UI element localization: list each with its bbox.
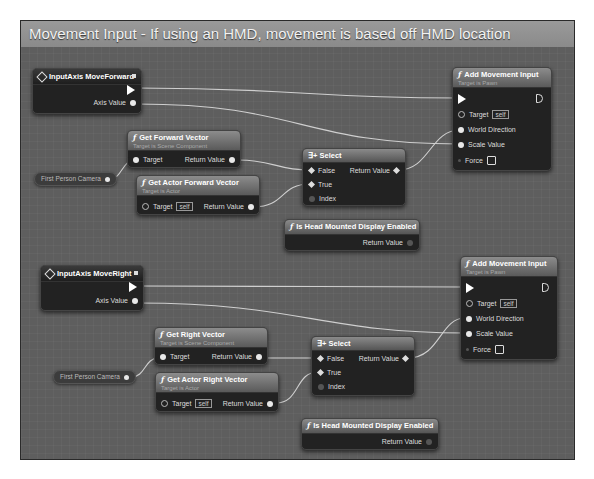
pin-label: Axis Value	[95, 297, 128, 304]
get-forward-vector-node[interactable]: ƒGet Forward Vector Target is Scene Comp…	[127, 130, 241, 168]
force-checkbox[interactable]	[495, 345, 504, 354]
add-movement-input-node[interactable]: ƒAdd Movement Input Target is Pawn Targe…	[460, 256, 558, 360]
comment-box-title[interactable]: Movement Input - If using an HMD, moveme…	[21, 21, 574, 47]
exec-output-pin[interactable]	[536, 94, 543, 103]
self-default-value[interactable]: self	[500, 299, 516, 308]
index-pin[interactable]: Index	[309, 195, 336, 202]
axis-value-pin[interactable]: Axis Value	[95, 297, 138, 304]
object-pin-icon	[105, 177, 110, 182]
node-subtitle: Target is Scene Component	[133, 143, 235, 149]
target-pin[interactable]: Target self	[142, 202, 193, 211]
first-person-camera-variable[interactable]: First Person Camera	[53, 370, 136, 384]
node-title: Add Movement Input	[472, 259, 546, 268]
false-pin[interactable]: False	[309, 167, 335, 174]
force-checkbox[interactable]	[487, 156, 496, 165]
false-pin[interactable]: False	[318, 355, 344, 362]
select-node[interactable]: ∃+ Select False Return Value True Index	[311, 336, 415, 396]
select-icon: ∃+	[317, 339, 326, 348]
return-value-pin[interactable]: Return Value	[359, 355, 408, 362]
node-header: ƒAdd Movement Input Target is Pawn	[453, 68, 551, 88]
event-delegate-pin[interactable]	[132, 74, 136, 78]
world-direction-pin[interactable]: World Direction	[466, 315, 524, 322]
return-value-pin[interactable]: Return Value	[363, 239, 413, 246]
select-icon: ∃+	[308, 151, 317, 160]
vector-pin-icon	[248, 204, 254, 210]
object-pin-icon	[458, 111, 465, 118]
pin-label: Index	[328, 383, 345, 390]
pin-label: Force	[473, 346, 491, 353]
return-value-pin[interactable]: Return Value	[204, 203, 254, 210]
wildcard-pin-icon	[402, 355, 409, 362]
target-pin[interactable]: Target self	[466, 299, 517, 308]
pin-label: World Direction	[468, 126, 516, 133]
true-pin[interactable]: True	[318, 369, 341, 376]
pin-label: Return Value	[212, 353, 252, 360]
self-default-value[interactable]: self	[195, 399, 211, 408]
exec-input-pin[interactable]	[466, 283, 474, 293]
pin-label: Scale Value	[468, 141, 505, 148]
node-header: ∃+ Select	[312, 337, 414, 351]
input-axis-move-forward-node[interactable]: InputAxis MoveForward Axis Value	[32, 68, 142, 114]
get-right-vector-node[interactable]: ƒGet Right Vector Target is Scene Compon…	[154, 327, 268, 365]
force-pin[interactable]: Force	[458, 156, 496, 165]
self-default-value[interactable]: self	[492, 110, 508, 119]
node-header: ƒGet Actor Right Vector Target is Actor	[156, 373, 278, 393]
node-header: ƒGet Forward Vector Target is Scene Comp…	[128, 131, 240, 151]
return-value-pin[interactable]: Return Value	[382, 438, 432, 445]
select-node[interactable]: ∃+ Select False Return Value True Index	[302, 148, 406, 206]
node-title: Is Head Mounted Display Enabled	[296, 222, 416, 231]
add-movement-input-node[interactable]: ƒAdd Movement Input Target is Pawn Targe…	[452, 67, 552, 171]
pin-label: Target	[172, 400, 191, 407]
return-value-pin[interactable]: Return Value	[350, 167, 399, 174]
pin-label: Index	[319, 195, 336, 202]
exec-output-pin[interactable]	[127, 85, 135, 95]
node-title: Get Actor Forward Vector	[148, 178, 239, 187]
is-hmd-enabled-node[interactable]: ƒIs Head Mounted Display Enabled Return …	[301, 418, 439, 450]
object-pin-icon	[161, 400, 168, 407]
world-direction-pin[interactable]: World Direction	[458, 126, 516, 133]
exec-pin-icon	[536, 94, 543, 103]
event-icon	[44, 268, 55, 279]
node-subtitle: Target is Actor	[161, 385, 273, 391]
scale-value-pin[interactable]: Scale Value	[466, 330, 513, 337]
pin-label: Target	[477, 300, 496, 307]
vector-pin-icon	[267, 401, 273, 407]
return-value-pin[interactable]: Return Value	[212, 353, 262, 360]
is-hmd-enabled-node[interactable]: ƒIs Head Mounted Display Enabled Return …	[284, 219, 420, 251]
return-value-pin[interactable]: Return Value	[223, 400, 273, 407]
node-title: Select	[328, 339, 350, 348]
wildcard-pin-icon	[317, 369, 324, 376]
pin-label: World Direction	[476, 315, 524, 322]
node-header: ƒGet Actor Forward Vector Target is Acto…	[137, 176, 259, 196]
exec-output-pin[interactable]	[129, 282, 137, 292]
wildcard-pin-icon	[393, 167, 400, 174]
pin-label: False	[327, 355, 344, 362]
exec-output-pin[interactable]	[542, 283, 549, 292]
target-pin[interactable]: Target	[160, 353, 189, 360]
target-pin[interactable]: Target self	[458, 110, 509, 119]
self-default-value[interactable]: self	[176, 202, 192, 211]
object-pin-icon	[142, 203, 149, 210]
object-pin-icon	[133, 157, 139, 163]
target-pin[interactable]: Target self	[161, 399, 212, 408]
get-actor-right-vector-node[interactable]: ƒGet Actor Right Vector Target is Actor …	[155, 372, 279, 412]
target-pin[interactable]: Target	[133, 156, 162, 163]
true-pin[interactable]: True	[309, 181, 332, 188]
event-delegate-pin[interactable]	[134, 271, 138, 275]
get-actor-forward-vector-node[interactable]: ƒGet Actor Forward Vector Target is Acto…	[136, 175, 260, 215]
force-pin[interactable]: Force	[466, 345, 504, 354]
pin-label: Target	[170, 353, 189, 360]
wildcard-pin-icon	[317, 355, 324, 362]
axis-value-pin[interactable]: Axis Value	[93, 99, 136, 106]
scale-value-pin[interactable]: Scale Value	[458, 141, 505, 148]
node-title: Get Forward Vector	[139, 133, 208, 142]
object-pin-icon	[124, 375, 129, 380]
pin-label: Target	[153, 203, 172, 210]
index-pin[interactable]: Index	[318, 383, 345, 390]
function-icon: ƒ	[458, 70, 461, 79]
return-value-pin[interactable]: Return Value	[185, 156, 235, 163]
bool-pin-icon	[426, 439, 432, 445]
exec-input-pin[interactable]	[458, 94, 466, 104]
input-axis-move-right-node[interactable]: InputAxis MoveRight Axis Value	[40, 265, 144, 311]
first-person-camera-variable[interactable]: First Person Camera	[34, 172, 117, 186]
